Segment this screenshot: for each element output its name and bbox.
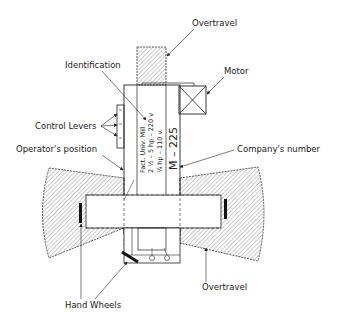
label-identification: Identification <box>65 60 121 70</box>
label-overtravel-bottom: Overtravel <box>202 282 247 292</box>
worktable <box>86 195 221 228</box>
milling-machine-layout-diagram: Fact. Univ. Mill 2 ½ – 5 hp – 220 v ¼ hp… <box>0 0 338 319</box>
label-operators-position: Operator's position <box>16 144 97 154</box>
motor-icon <box>179 86 206 114</box>
identification-plate: Fact. Univ. Mill 2 ½ – 5 hp – 220 v ¼ hp… <box>139 113 164 173</box>
nameplate-line-3: ¼ hp – 110 v <box>156 131 164 173</box>
label-companys-number: Company's number <box>237 144 321 154</box>
label-control-levers: Control Levers <box>35 121 97 131</box>
label-motor: Motor <box>224 66 249 76</box>
company-number-plate: M – 225 <box>167 127 180 170</box>
hand-wheel-right-icon <box>224 199 227 219</box>
label-overtravel-top: Overtravel <box>192 18 237 28</box>
top-overtravel-block <box>137 47 166 85</box>
label-hand-wheels: Hand Wheels <box>65 300 122 310</box>
nameplate-line-1: Fact. Univ. Mill <box>139 126 147 173</box>
control-levers-panel <box>117 105 124 148</box>
hand-wheel-left-icon <box>79 203 82 223</box>
nameplate-line-2: 2 ½ – 5 hp – 220 v <box>147 113 155 173</box>
